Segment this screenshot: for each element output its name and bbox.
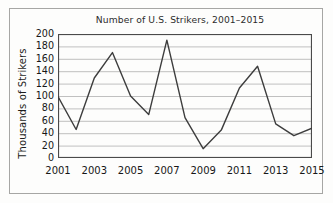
- gridlines: [58, 47, 312, 146]
- x-tick-label: 2003: [74, 166, 114, 176]
- y-tick-label: 60: [24, 116, 54, 126]
- x-tick-label: 2009: [183, 166, 223, 176]
- y-tick-label: 100: [24, 91, 54, 101]
- y-tick-label: 20: [24, 141, 54, 151]
- data-line: [58, 40, 312, 149]
- y-tick-label: 120: [24, 79, 54, 89]
- line-chart-svg: [58, 34, 312, 158]
- y-tick-label: 80: [24, 104, 54, 114]
- x-tick-label: 2005: [111, 166, 151, 176]
- y-tick-label: 140: [24, 66, 54, 76]
- y-tick-label: 200: [24, 29, 54, 39]
- plot-frame: [59, 35, 312, 158]
- x-axis-tick-labels: 20012003200520072009201120132015: [58, 166, 312, 180]
- x-tick-label: 2011: [219, 166, 259, 176]
- y-tick-label: 0: [24, 153, 54, 163]
- plot-area: [58, 34, 312, 158]
- y-tick-label: 180: [24, 42, 54, 52]
- y-axis-tick-labels: 200180160140120100806040200: [22, 34, 54, 158]
- y-tick-label: 40: [24, 128, 54, 138]
- x-tick-label: 2013: [256, 166, 296, 176]
- chart-figure: Number of U.S. Strikers, 2001–2015 Thous…: [0, 0, 333, 203]
- x-tick-label: 2001: [38, 166, 78, 176]
- chart-title: Number of U.S. Strikers, 2001–2015: [40, 14, 320, 25]
- x-tick-label: 2015: [292, 166, 332, 176]
- x-tick-label: 2007: [147, 166, 187, 176]
- y-tick-label: 160: [24, 54, 54, 64]
